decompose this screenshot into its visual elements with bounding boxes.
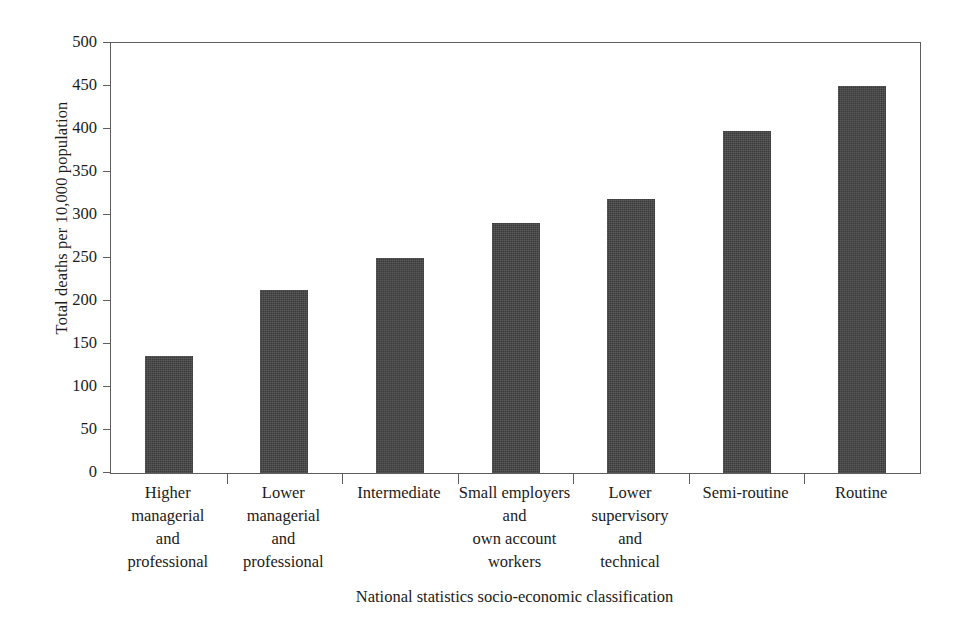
x-axis-category-label-line: workers — [457, 550, 573, 573]
bar-chart-figure: Total deaths per 10,000 population 05010… — [0, 0, 966, 623]
y-axis-tick-label: 300 — [37, 204, 97, 224]
y-axis-tick-mark — [103, 42, 111, 43]
x-axis-category-label-line: technical — [572, 550, 688, 573]
x-axis-category-label-line: managerial — [110, 504, 226, 527]
y-axis-tick-mark — [103, 257, 111, 258]
bar — [376, 258, 424, 473]
x-axis-category-label: Lowersupervisoryandtechnical — [572, 481, 688, 573]
y-axis-tick-mark — [103, 85, 111, 86]
x-axis-title: National statistics socio-economic class… — [110, 587, 919, 607]
x-axis-category-label-line: and — [457, 504, 573, 527]
y-axis-tick-mark — [103, 214, 111, 215]
y-axis-tick-mark — [103, 300, 111, 301]
y-axis-tick-mark — [103, 171, 111, 172]
y-axis-tick-label: 100 — [37, 376, 97, 396]
y-axis-tick-mark — [103, 472, 111, 473]
y-axis-tick-label: 500 — [37, 32, 97, 52]
x-axis-category-label-line: Lower — [572, 481, 688, 504]
y-axis-tick-mark — [103, 429, 111, 430]
x-axis-category-label-line: Lower — [226, 481, 342, 504]
x-axis-category-label-line: and — [226, 527, 342, 550]
x-axis-category-label-line: Intermediate — [341, 481, 457, 504]
x-axis-category-label: Intermediate — [341, 481, 457, 504]
y-axis-tick-mark — [103, 128, 111, 129]
x-axis-category-label-line: professional — [110, 550, 226, 573]
plot-area: 050100150200250300350400450500 — [110, 42, 921, 474]
x-axis-category-label-line: own account — [457, 527, 573, 550]
x-axis-category-label-line: managerial — [226, 504, 342, 527]
y-axis-tick-label: 150 — [37, 333, 97, 353]
x-axis-category-label-line: professional — [226, 550, 342, 573]
x-axis-category-label: Highermanagerialandprofessional — [110, 481, 226, 573]
y-axis-tick-label: 400 — [37, 118, 97, 138]
y-axis-tick-label: 250 — [37, 247, 97, 267]
x-axis-category-label: Small employersandown accountworkers — [457, 481, 573, 573]
y-axis-tick-mark — [103, 343, 111, 344]
bar — [145, 356, 193, 473]
x-axis-category-label-line: Higher — [110, 481, 226, 504]
x-axis-category-label: Lowermanagerialandprofessional — [226, 481, 342, 573]
bar — [723, 131, 771, 473]
y-axis-tick-label: 200 — [37, 290, 97, 310]
y-axis-tick-mark — [103, 386, 111, 387]
x-axis-category-label-line: Routine — [803, 481, 919, 504]
y-axis-tick-label: 350 — [37, 161, 97, 181]
bar — [260, 290, 308, 473]
x-axis-category-label: Routine — [803, 481, 919, 504]
bar — [492, 223, 540, 473]
x-axis-category-label-line: Small employers — [457, 481, 573, 504]
bar — [838, 86, 886, 473]
y-axis-tick-label: 50 — [37, 419, 97, 439]
x-axis-category-label: Semi-routine — [688, 481, 804, 504]
x-axis-category-label-line: and — [572, 527, 688, 550]
y-axis-tick-label: 0 — [37, 462, 97, 482]
y-axis-tick-label: 450 — [37, 75, 97, 95]
x-axis-category-label-line: supervisory — [572, 504, 688, 527]
x-axis-category-label-line: Semi-routine — [688, 481, 804, 504]
x-axis-category-label-line: and — [110, 527, 226, 550]
bar — [607, 199, 655, 473]
